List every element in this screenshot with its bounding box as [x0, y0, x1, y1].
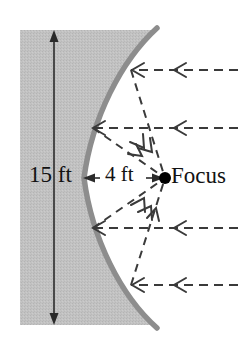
- depth-dimension-label: 4 ft: [105, 164, 134, 185]
- focus-label: Focus: [171, 164, 226, 187]
- diagram-canvas: 15 ft 4 ft Focus: [0, 0, 238, 345]
- height-dimension-label: 15 ft: [29, 163, 72, 186]
- focus-dot: [159, 172, 171, 184]
- reflected-ray-1: [131, 70, 165, 178]
- reflected-ray-4: [131, 178, 165, 285]
